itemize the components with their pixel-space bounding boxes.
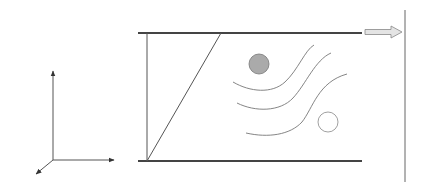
coordinate-axes: [36, 71, 114, 174]
z-axis: [36, 160, 53, 174]
filled-particle: [249, 54, 269, 74]
profile-envelope: [147, 33, 221, 161]
plate-motion-arrow: [365, 26, 402, 38]
diagram-canvas: [0, 0, 425, 190]
hollow-particle: [318, 112, 338, 132]
velocity-profile: [147, 33, 221, 161]
streamline-1: [233, 45, 314, 90]
